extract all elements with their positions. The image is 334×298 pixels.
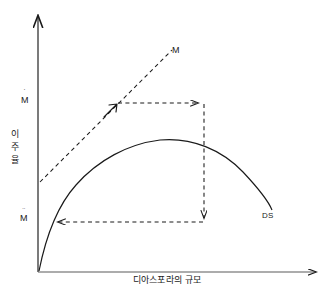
m-lower-tick-label: ¨ M [20, 209, 28, 223]
diagram-figure: 디아스포라의 규모 이 주 율 ˙ M ¨ M M DS [0, 0, 334, 298]
ds-curve-label: DS [262, 212, 274, 220]
y-axis-title-char-3: 율 [8, 154, 22, 167]
m-upper-base-letter: M [21, 95, 29, 105]
x-axis-title: 디아스포라의 규모 [0, 276, 334, 285]
diagonal-arrowhead-icon [104, 104, 117, 117]
y-axis-title: 이 주 율 [8, 128, 22, 167]
diagram-canvas [0, 0, 334, 298]
ds-curve [39, 140, 272, 271]
m-dashed-line [40, 50, 172, 182]
y-axis-title-char-2: 주 [8, 141, 22, 154]
y-axis-title-char-1: 이 [8, 128, 22, 141]
m-lower-base-letter: M [20, 213, 28, 223]
m-upper-tick-label: ˙ M [21, 91, 29, 105]
m-line-label: M [172, 46, 180, 55]
